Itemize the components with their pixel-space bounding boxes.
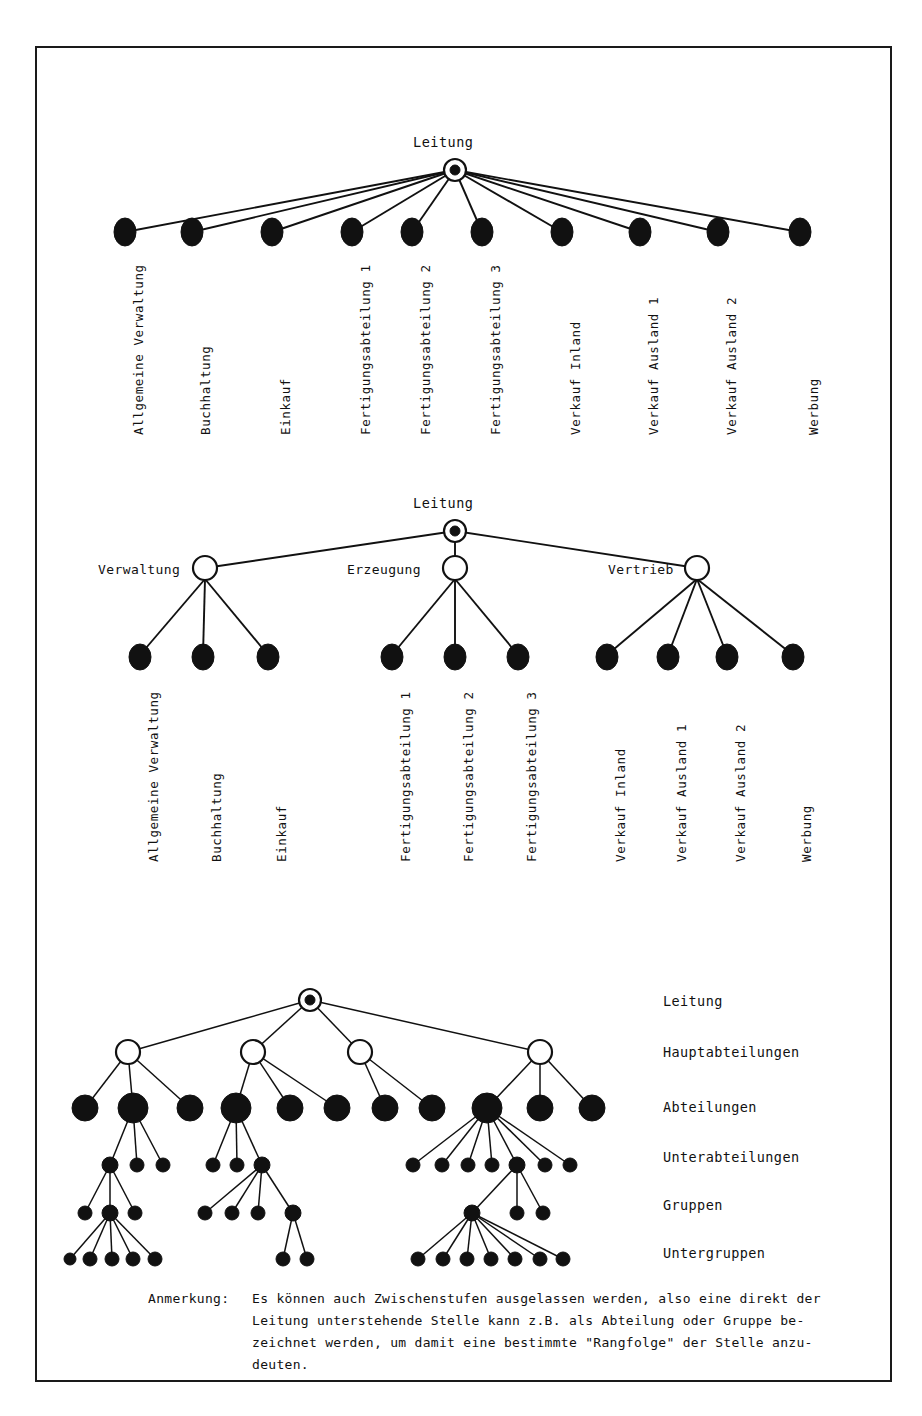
diagram2-leaf-label-3: Fertigungsabteilung 1 (398, 691, 413, 862)
diagram2-division-label-0: Verwaltung (98, 562, 180, 577)
diagram2-leaf-label-7: Verkauf Ausland 1 (674, 724, 689, 862)
diagram2-leaf-label-6: Verkauf Inland (613, 748, 628, 862)
diagram1-leaf-label-7: Verkauf Ausland 1 (646, 297, 661, 435)
diagram1-leaf-label-8: Verkauf Ausland 2 (724, 297, 739, 435)
diagram2-division-label-2: Vertrieb (608, 562, 674, 577)
diagram3-level-label-hauptabteilungen: Hauptabteilungen (663, 1044, 799, 1060)
diagram1-leaf-label-6: Verkauf Inland (568, 321, 583, 435)
diagram1-leaf-label-2: Einkauf (278, 378, 293, 435)
note-first-line: Anmerkung: Es können auch Zwischenstufen… (148, 1288, 868, 1310)
note-line-4: deuten. (148, 1354, 868, 1376)
diagram1-leaf-label-0: Allgemeine Verwaltung (131, 264, 146, 435)
diagram3-level-label-leitung: Leitung (663, 993, 723, 1009)
diagram3-level-label-abteilungen: Abteilungen (663, 1099, 757, 1115)
diagram2-leaf-label-0: Allgemeine Verwaltung (146, 691, 161, 862)
diagram2-leaf-label-5: Fertigungsabteilung 3 (524, 691, 539, 862)
diagram3-level-label-untergruppen: Untergruppen (663, 1245, 765, 1261)
diagram2-division-label-1: Erzeugung (347, 562, 421, 577)
diagram2-leaf-label-2: Einkauf (274, 805, 289, 862)
diagram3-level-label-unterabteilungen: Unterabteilungen (663, 1149, 799, 1165)
figure-page: .edge { stroke:#111; stroke-width:1.9; f… (0, 0, 922, 1416)
diagram1-leaf-label-9: Werbung (806, 378, 821, 435)
note-block: Anmerkung: Es können auch Zwischenstufen… (148, 1288, 868, 1376)
diagram1-leaf-label-5: Fertigungsabteilung 3 (488, 264, 503, 435)
diagram1-leaf-label-3: Fertigungsabteilung 1 (358, 264, 373, 435)
diagram1-leaf-label-1: Buchhaltung (198, 346, 213, 435)
diagram3-level-label-gruppen: Gruppen (663, 1197, 723, 1213)
diagram2-leaf-label-8: Verkauf Ausland 2 (733, 724, 748, 862)
note-key: Anmerkung: (148, 1288, 252, 1310)
diagram1-leaf-label-4: Fertigungsabteilung 2 (418, 264, 433, 435)
note-line-1: Es können auch Zwischenstufen ausgelasse… (252, 1288, 868, 1310)
diagram2-root-label: Leitung (413, 495, 473, 511)
note-line-2: Leitung unterstehende Stelle kann z.B. a… (148, 1310, 868, 1332)
diagram2-leaf-label-4: Fertigungsabteilung 2 (461, 691, 476, 862)
diagram2-leaf-label-1: Buchhaltung (209, 773, 224, 862)
diagram1-root-label: Leitung (413, 134, 473, 150)
note-line-3: zeichnet werden, um damit eine bestimmte… (148, 1332, 868, 1354)
diagram2-leaf-label-9: Werbung (799, 805, 814, 862)
